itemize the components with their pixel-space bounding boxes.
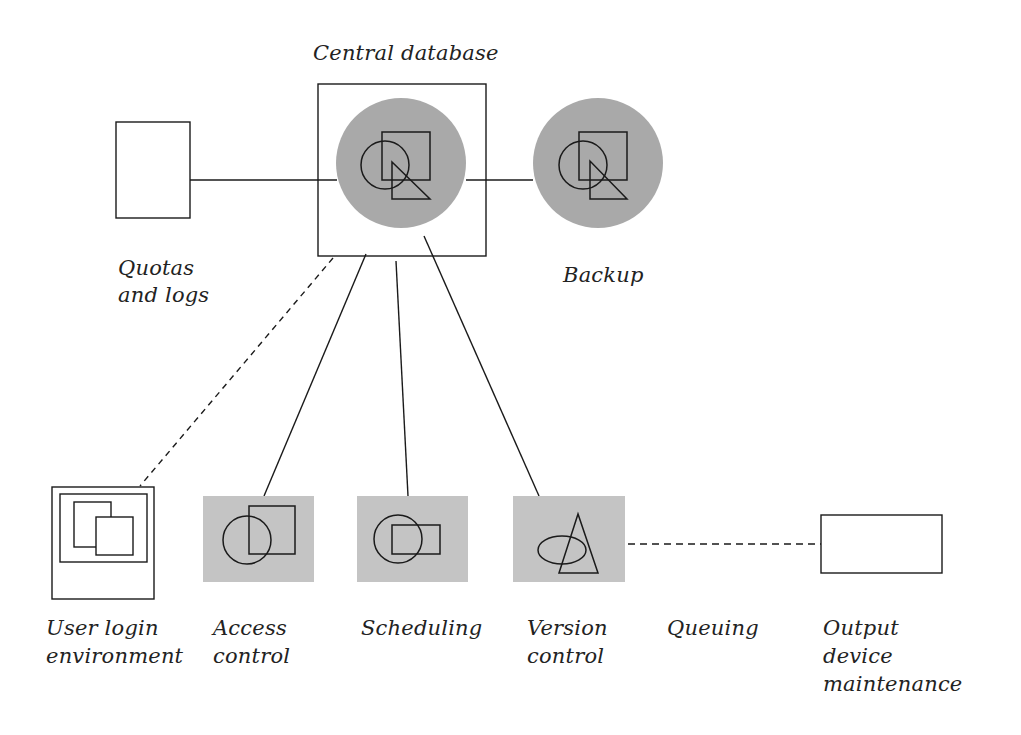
user-login-label-line2: environment: [46, 643, 183, 670]
scheduling-node: [357, 496, 468, 582]
user-login-label-line1: User login: [46, 615, 159, 642]
version-control-node: [513, 496, 625, 582]
output-device-label-line2: device: [823, 643, 893, 670]
quotas-logs-box: [116, 122, 190, 218]
queuing-label: Queuing: [667, 615, 759, 642]
central-database-label: Central database: [313, 40, 499, 67]
central-database-disk: [336, 98, 466, 228]
version-control-label-line1: Version: [527, 615, 608, 642]
backup-label: Backup: [563, 262, 644, 289]
edge-central-to-access: [264, 254, 366, 496]
output-device-box: [821, 515, 942, 573]
central-database-node: [318, 84, 486, 256]
output-device-label-line1: Output: [823, 615, 899, 642]
access-control-node: [203, 496, 314, 582]
output-device-label-line3: maintenance: [823, 671, 963, 698]
version-control-label-line2: control: [527, 643, 604, 670]
edge-central-to-version: [424, 236, 539, 496]
backup-node: [533, 98, 663, 228]
access-control-label-line2: control: [213, 643, 290, 670]
access-control-label-line1: Access: [213, 615, 287, 642]
edge-central-to-scheduling: [396, 261, 408, 496]
user-login-node: [52, 487, 154, 599]
scheduling-label: Scheduling: [361, 615, 482, 642]
quotas-logs-label-line1: Quotas: [118, 255, 194, 282]
backup-disk: [533, 98, 663, 228]
quotas-logs-label-line2: and logs: [118, 282, 209, 309]
